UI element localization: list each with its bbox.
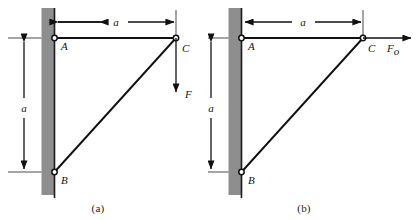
pin-joint-b [52, 169, 57, 174]
joint-label-a: A [247, 40, 255, 52]
dimension-vertical-a: a [21, 42, 27, 169]
dimension-vertical-a-label: a [208, 102, 214, 114]
panel-b: a a A B C Fo (b) [208, 0, 416, 220]
load-label-fo: Fo [386, 42, 400, 57]
load-label-f: F [184, 88, 192, 100]
figure-root: a a A B C F (a) [0, 0, 417, 220]
dimension-horizontal-a: a [58, 16, 174, 28]
dimension-horizontal-a: a [245, 16, 361, 28]
member-bc [55, 38, 177, 172]
load-label-fo-subscript: o [394, 45, 400, 57]
dimension-vertical-a: a [208, 42, 214, 169]
pin-joint-a [52, 35, 57, 40]
joint-label-c: C [368, 42, 376, 54]
dimension-horizontal-a-label: a [113, 16, 119, 28]
panel-caption-b: (b) [200, 202, 408, 214]
panel-caption-a: (a) [0, 202, 202, 214]
panel-a: a a A B C F (a) [0, 0, 208, 220]
pin-joint-b [239, 169, 244, 174]
joint-label-b: B [61, 174, 68, 186]
pin-joint-a [239, 35, 244, 40]
joint-label-a: A [60, 40, 68, 52]
joint-label-b: B [248, 174, 255, 186]
dimension-horizontal-a-label: a [300, 16, 306, 28]
joint-label-c: C [182, 42, 190, 54]
member-bc [242, 38, 364, 172]
dimension-vertical-a-label: a [21, 102, 27, 114]
